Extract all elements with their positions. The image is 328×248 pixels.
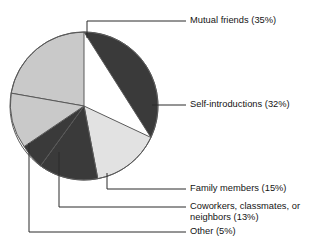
leader-line-family-members <box>107 173 186 189</box>
pie-label-mutual-friends: Mutual friends (35%) <box>190 15 276 26</box>
pie-label-coworkers-line1: Coworkers, classmates, or <box>190 201 300 212</box>
pie-label-coworkers-line2: neighbors (13%) <box>190 212 259 223</box>
pie-chart-figure: Mutual friends (35%) Self-introductions … <box>0 0 328 248</box>
pie-label-self-introductions: Self-introductions (32%) <box>190 99 290 110</box>
pie-label-family-members: Family members (15%) <box>190 183 286 194</box>
pie-label-other: Other (5%) <box>190 226 236 237</box>
